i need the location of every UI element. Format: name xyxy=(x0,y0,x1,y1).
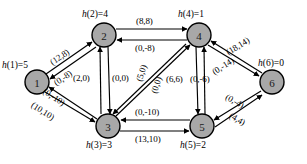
node-2-height-arg: (2) xyxy=(87,9,98,19)
node-4-label: 4 xyxy=(196,30,202,42)
node-5-height-label: h(5)=2 xyxy=(180,140,206,150)
node-1-label: 1 xyxy=(34,77,40,89)
edge-2-3 xyxy=(108,47,110,114)
node-4-height-label: h(4)=1 xyxy=(178,9,204,19)
node-2-height-label: h(2)=4 xyxy=(82,9,108,19)
edge-label-4-2: (0,-8) xyxy=(135,43,155,53)
edge-label-5-4: (0,-6) xyxy=(190,74,210,84)
node-3[interactable]: 3 xyxy=(96,114,120,138)
edge-label-4-5: (6,6) xyxy=(166,74,183,84)
node-6-height-label: h(6)=0 xyxy=(258,58,284,68)
node-5-height-arg: (5) xyxy=(185,140,196,150)
node-5[interactable]: 5 xyxy=(190,114,214,138)
node-6[interactable]: 6 xyxy=(260,70,284,94)
node-3-height-label: h(3)=3 xyxy=(86,140,112,150)
node-1-height-value: 5 xyxy=(23,60,28,70)
node-6-height-arg: (6) xyxy=(263,58,274,68)
node-1-height-label: h(1)=5 xyxy=(2,60,28,70)
edge-label-2-3: (2,0) xyxy=(73,73,90,83)
node-2-height-value: 4 xyxy=(103,9,108,19)
node-6-height-value: 0 xyxy=(279,58,284,68)
edge-label-3-2: (0,0) xyxy=(112,73,129,83)
node-3-height-value: 3 xyxy=(107,140,112,150)
diagram-canvas: 1 2 3 4 5 6 h(1)=5 h(2)=4 h(3)=3 h(4 xyxy=(0,0,307,164)
node-3-height-arg: (3) xyxy=(91,140,102,150)
edge-label-3-5: (13,10) xyxy=(135,134,161,144)
node-2-label: 2 xyxy=(101,30,107,42)
node-5-label: 5 xyxy=(199,121,205,133)
edge-label-2-4: (8,8) xyxy=(136,16,153,26)
node-4[interactable]: 4 xyxy=(187,23,211,47)
node-4-height-arg: (4) xyxy=(183,9,194,19)
node-2[interactable]: 2 xyxy=(92,23,116,47)
node-5-height-value: 2 xyxy=(201,140,206,150)
node-6-label: 6 xyxy=(269,77,275,89)
node-1-height-arg: (1) xyxy=(7,60,18,70)
node-4-height-value: 1 xyxy=(199,9,204,19)
node-3-label: 3 xyxy=(105,121,111,133)
edge-3-2 xyxy=(100,47,101,114)
edge-label-5-3: (0,-10) xyxy=(135,107,159,117)
